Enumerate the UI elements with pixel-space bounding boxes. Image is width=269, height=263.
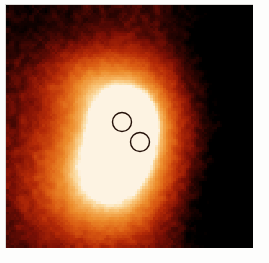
heatmap-canvas [6,5,253,248]
figure-root [0,0,269,263]
page-margin-right [253,0,269,263]
heatmap-plate [6,5,253,248]
page-margin-bottom [0,248,269,263]
